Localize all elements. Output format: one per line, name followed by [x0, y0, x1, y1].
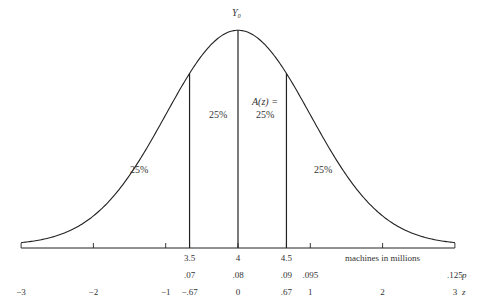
x-tick-label: 4.5: [281, 253, 292, 263]
z-value-label: −3: [16, 287, 26, 297]
z-value-label: −1: [161, 287, 171, 297]
region-label-left-center: 25%: [209, 109, 227, 120]
p-value-label: .125: [447, 270, 463, 280]
y0-label: Y₀: [232, 7, 241, 18]
region-label-right-center: 25%: [256, 109, 274, 120]
p-value-label: .07: [184, 270, 195, 280]
z-value-label: −.67: [181, 287, 197, 297]
region-label-right-tail: 25%: [314, 164, 332, 175]
x-tick-label: 3.5: [184, 253, 195, 263]
axis-label: machines in millions: [345, 253, 420, 263]
x-tick-label: 4: [236, 253, 241, 263]
p-value-label: .095: [302, 270, 318, 280]
p-value-label: .08: [232, 270, 243, 280]
region-label-left-tail: 25%: [130, 164, 148, 175]
z-value-label: .67: [281, 287, 292, 297]
z-value-label: 0: [236, 287, 241, 297]
z-value-label: −2: [89, 287, 99, 297]
region-label-az: A(z) =: [252, 96, 278, 107]
z-row-label: z: [462, 287, 466, 297]
z-value-label: 2: [380, 287, 385, 297]
z-value-label: 1: [308, 287, 313, 297]
p-value-label: .09: [281, 270, 292, 280]
z-value-label: 3: [453, 287, 458, 297]
